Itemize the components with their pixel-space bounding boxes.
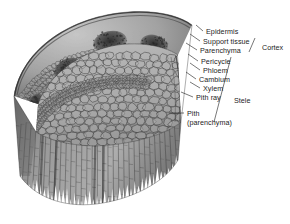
bundle-cell (32, 110, 33, 111)
cortex-cell (26, 102, 32, 107)
bundle-cell (98, 40, 99, 41)
cortex-cell (21, 100, 28, 104)
fibre-cross-wall (162, 189, 165, 190)
bundle-cell (31, 105, 33, 107)
fibre-cross-wall (180, 134, 183, 135)
bundle-cell (35, 109, 36, 110)
bundle-cell (157, 40, 159, 42)
bundle-cell (31, 103, 33, 105)
pith-cell (66, 75, 76, 83)
bundle-cell (162, 39, 163, 40)
bundle-cell (97, 35, 98, 36)
bundle-cell (99, 38, 100, 39)
bundle-cell (100, 34, 102, 36)
bundle-cell (167, 44, 168, 45)
bottom-margin (0, 207, 290, 224)
bundle-cell (166, 46, 167, 47)
fibre-cross-wall (167, 181, 171, 182)
bundle-cell (55, 70, 56, 71)
bundle-cell (154, 43, 155, 44)
pith-cell (89, 65, 97, 74)
bundle-cell (26, 104, 28, 106)
bundle-cell (117, 32, 118, 33)
bundle-cell (33, 109, 34, 110)
pith-cell (137, 117, 145, 126)
torn-notch (178, 158, 181, 172)
bundle-cell (57, 67, 58, 68)
cortex-cell (30, 106, 36, 110)
bundle-cell (30, 103, 32, 105)
bundle-cell (111, 44, 112, 45)
fibre-wall (184, 124, 189, 188)
pith-cell (57, 134, 67, 141)
bundle-cell (57, 72, 58, 73)
fibre-cross-wall (31, 121, 34, 122)
bundle-cell (101, 31, 103, 33)
bundle-cell (116, 40, 117, 41)
bundle-cell (30, 102, 32, 104)
cortex-section-cell (32, 117, 37, 121)
bundle-cell (116, 35, 118, 37)
bundle-cell (103, 34, 105, 36)
bundle-cell (161, 37, 162, 38)
bundle-cell (31, 104, 32, 105)
label-pith-ray: Pith ray (196, 94, 221, 102)
bundle-cell (33, 110, 35, 112)
bundle-cell (31, 110, 32, 111)
bundle-cell (120, 40, 121, 41)
bundle-cell (31, 100, 32, 101)
bundle-cell (29, 98, 30, 99)
region-label-stele: Stele (234, 97, 250, 105)
bundle-cell (29, 106, 31, 108)
bundle-cell (126, 40, 127, 41)
label-parenchyma: Parenchyma (200, 47, 241, 55)
bundle-cell (33, 101, 34, 102)
bundle-cell (36, 106, 37, 107)
bundle-cell (122, 39, 124, 41)
bundle-cell (107, 37, 109, 39)
bundle-cell (142, 40, 144, 42)
bundle-cell (156, 43, 158, 45)
bundle-cell (67, 62, 68, 63)
fibre-cross-wall (12, 175, 15, 176)
bundle-cell (54, 73, 55, 74)
bundle-cell (163, 46, 165, 48)
bundle-cell (93, 40, 94, 41)
bundle-cell (62, 67, 63, 68)
bundle-cell (123, 38, 124, 39)
bundle-cell (63, 64, 65, 66)
bundle-cell (32, 98, 33, 99)
bundle-cell (155, 39, 157, 41)
bundle-cell (163, 38, 165, 40)
torn-notch (23, 184, 28, 194)
bundle-cell (29, 102, 31, 104)
bundle-cell (124, 38, 125, 39)
bundle-cell (69, 62, 70, 63)
bundle-cell (93, 44, 95, 46)
cortex-cell (29, 108, 35, 113)
bundle-cell (64, 62, 65, 63)
cortex-cell (24, 108, 30, 113)
bundle-cell (116, 32, 117, 33)
fibre-wall (11, 126, 16, 188)
bundle-cell (160, 40, 161, 41)
bundle-cell (120, 35, 122, 37)
bundle-cell (26, 101, 28, 103)
bundle-cell (37, 98, 38, 99)
bundle-cell (32, 110, 34, 112)
bundle-cell (162, 43, 164, 45)
bundle-cell (28, 104, 29, 105)
fibre-cross-wall (181, 141, 184, 142)
fibre-cross-wall (181, 156, 184, 157)
fibre-cross-wall (17, 179, 20, 180)
fibre-cross-wall (185, 139, 189, 140)
bundle-cell (53, 70, 55, 72)
bundle-cell (160, 38, 162, 40)
region-label-cortex: Cortex (262, 44, 283, 52)
fibre-cross-wall (178, 186, 183, 187)
pith-cell (153, 118, 163, 126)
bundle-cell (26, 107, 28, 109)
cortex-cell (28, 112, 33, 116)
stem-cross-section-figure: EpidermisSupport tissueParenchymaPericyc… (0, 0, 290, 224)
pith-cell (110, 103, 119, 111)
